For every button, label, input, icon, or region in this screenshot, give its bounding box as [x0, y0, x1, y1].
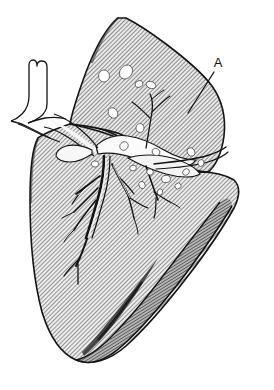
- nodule-lesion: [136, 123, 145, 133]
- lung-drawing-canvas: A: [0, 0, 274, 390]
- lung-body: [30, 18, 239, 362]
- label-a-text: A: [214, 55, 223, 70]
- nodule-lesion: [130, 165, 137, 171]
- lung-illustration-figure: A: [0, 0, 274, 390]
- nodule-lesion: [99, 70, 110, 82]
